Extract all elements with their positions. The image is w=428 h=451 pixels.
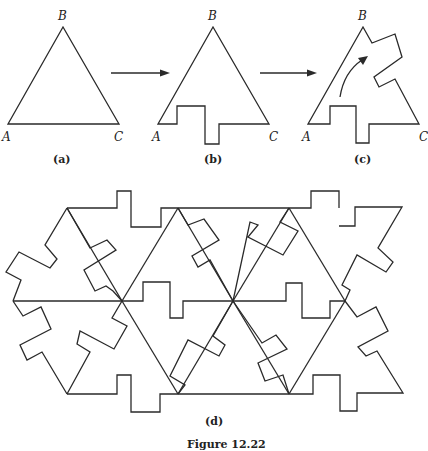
tiling-d <box>6 191 403 412</box>
vertex-label-c: C <box>114 130 123 144</box>
vertex-label-b: B <box>58 9 67 23</box>
vertex-label-a: A <box>152 130 161 144</box>
panel-caption-c: (c) <box>354 153 371 166</box>
vertex-label-c: C <box>419 130 428 144</box>
rotation-arrow-icon <box>340 56 368 97</box>
panel-caption-b: (b) <box>204 153 222 166</box>
triangle-a <box>8 27 119 124</box>
vertex-label-a: A <box>302 130 311 144</box>
figure-caption: Figure 12.22 <box>187 438 266 451</box>
vertex-label-b: B <box>208 9 217 23</box>
vertex-label-a: A <box>2 130 11 144</box>
arrow-right-icon <box>260 70 317 77</box>
panel-caption-a: (a) <box>53 153 71 166</box>
vertex-label-c: C <box>269 130 278 144</box>
panel-caption-d: (d) <box>205 415 223 428</box>
arrow-right-icon <box>111 70 170 77</box>
vertex-label-b: B <box>358 9 367 23</box>
triangle-b-modified <box>158 27 269 144</box>
triangle-c-modified <box>308 27 419 143</box>
